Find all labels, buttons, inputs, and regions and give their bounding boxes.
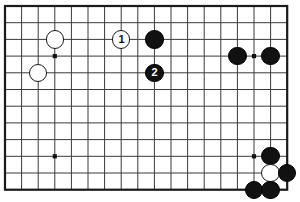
stone-black[interactable] [261, 47, 279, 65]
stone-white[interactable] [29, 64, 47, 82]
stone-black[interactable] [228, 47, 246, 65]
stone-black-move-2[interactable]: 2 [145, 64, 163, 82]
stone-black[interactable] [261, 181, 279, 199]
go-board[interactable]: 12 [0, 0, 300, 202]
stone-white[interactable] [46, 30, 64, 48]
stone-layer[interactable]: 12 [0, 0, 300, 202]
stone-move-number: 2 [152, 67, 158, 78]
stone-move-number: 1 [118, 34, 124, 45]
stone-black[interactable] [261, 147, 279, 165]
stone-white-move-1[interactable]: 1 [112, 30, 130, 48]
stone-black[interactable] [145, 30, 163, 48]
stone-black[interactable] [278, 164, 296, 182]
